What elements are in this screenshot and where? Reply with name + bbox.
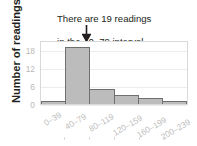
x-tick-1: 40–79 [63, 111, 88, 131]
x-tickmark-5 [164, 137, 165, 140]
y-tick-18: 18 [26, 47, 35, 55]
x-tickmark-2 [89, 137, 90, 140]
y-axis-ticks: 0 6 12 18 [0, 41, 38, 105]
y-tick-12: 12 [26, 65, 35, 73]
down-arrow-icon [82, 25, 91, 41]
x-tickmark-3 [114, 137, 115, 140]
plot-area [40, 41, 188, 105]
x-tick-0: 0–39 [42, 110, 63, 128]
bar-5 [162, 101, 187, 104]
y-tick-0: 0 [30, 101, 35, 109]
bar-2 [89, 89, 114, 104]
bar-1 [65, 47, 90, 104]
x-axis-ticks: 0–39 40–79 80–119 120–159 160–199 200–23… [40, 105, 188, 146]
histogram-figure: Number of readings There are 19 readings… [0, 0, 197, 146]
annotation-line-1: There are 19 readings [57, 13, 197, 25]
bar-4 [138, 98, 163, 104]
bar-3 [114, 95, 139, 104]
bar-series [41, 42, 187, 104]
x-tickmark-1 [64, 137, 65, 140]
y-tick-6: 6 [30, 83, 35, 91]
x-tickmark-4 [139, 137, 140, 140]
bar-0 [41, 101, 66, 104]
